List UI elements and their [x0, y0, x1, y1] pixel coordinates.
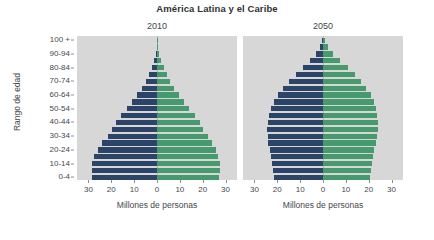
bar-row: [243, 134, 403, 139]
bar-row: [77, 113, 237, 118]
bar-female-15-19: [157, 154, 218, 159]
y-tick-mark: [71, 53, 74, 54]
bar-row: [243, 168, 403, 173]
bar-row: [77, 86, 237, 91]
bar-female-45-49: [323, 113, 377, 118]
bar-male-70-74: [146, 79, 157, 84]
bar-female-25-29: [323, 140, 376, 145]
x-tick-label: 30: [84, 185, 93, 194]
bar-male-40-44: [268, 120, 323, 125]
y-tick-mark: [71, 136, 74, 137]
bar-row: [77, 79, 237, 84]
bar-row: [77, 99, 237, 104]
bar-row: [243, 79, 403, 84]
bar-male-30-34: [268, 134, 323, 139]
bar-row: [243, 86, 403, 91]
y-tick-mark: [71, 177, 74, 178]
bar-female-35-39: [323, 127, 378, 132]
y-tick-label: 60-64: [50, 91, 70, 99]
bar-row: [243, 51, 403, 56]
bar-row: [243, 120, 403, 125]
bar-female-80-84: [323, 65, 348, 70]
x-tick-label: 30: [221, 185, 230, 194]
bar-female-70-74: [157, 79, 170, 84]
bar-female-90-94: [157, 51, 159, 56]
panel-2050-plot-area: [243, 36, 403, 180]
bar-female-40-44: [157, 120, 200, 125]
y-tick-label: 30-34: [50, 132, 70, 140]
x-tick-mark: [157, 180, 158, 183]
y-tick-mark: [71, 95, 74, 96]
y-tick-label: 50-54: [50, 105, 70, 113]
bar-male-80-84: [303, 65, 323, 70]
y-tick-label: 70-74: [50, 77, 70, 85]
x-tick-label: 30: [250, 185, 259, 194]
bar-male-25-29: [268, 140, 323, 145]
x-tick-label: 10: [296, 185, 305, 194]
bar-row: [77, 120, 237, 125]
bar-female-40-44: [323, 120, 378, 125]
bar-male-75-79: [296, 72, 323, 77]
bar-row: [77, 154, 237, 159]
y-tick-mark: [71, 163, 74, 164]
y-tick-label: 100 +: [50, 36, 70, 44]
bar-row: [243, 127, 403, 132]
bar-male-60-64: [278, 92, 323, 97]
bar-row: [77, 44, 237, 49]
bar-female-20-24: [323, 147, 374, 152]
bar-row: [77, 92, 237, 97]
bar-male-65-69: [142, 86, 157, 91]
bar-male-30-34: [108, 134, 157, 139]
bar-row: [77, 134, 237, 139]
bar-female-100 +: [323, 38, 325, 43]
y-tick-mark: [71, 40, 74, 41]
y-axis-tick-labels: 0-410-1420-2430-3440-4450-5460-6470-7480…: [22, 36, 74, 180]
bar-female-60-64: [323, 92, 371, 97]
bar-male-50-54: [271, 106, 323, 111]
bar-male-45-49: [121, 113, 157, 118]
bar-male-65-69: [283, 86, 323, 91]
bar-female-35-39: [157, 127, 203, 132]
bar-female-90-94: [323, 51, 333, 56]
bar-row: [243, 72, 403, 77]
y-tick-label: 80-84: [50, 64, 70, 72]
bar-male-55-59: [274, 99, 323, 104]
x-tick-mark: [300, 180, 301, 183]
x-tick-label: 10: [341, 185, 350, 194]
bar-female-45-49: [157, 113, 195, 118]
panel-2050-x-axis-title: Millones de personas: [243, 200, 403, 210]
bar-row: [77, 161, 237, 166]
y-tick-label: 0-4: [58, 173, 70, 181]
bar-female-5-9: [157, 168, 220, 173]
bar-row: [243, 140, 403, 145]
bar-row: [243, 161, 403, 166]
bar-female-75-79: [157, 72, 167, 77]
y-tick-label: 90-94: [50, 50, 70, 58]
panel-2010: 2010 Millones de personas 3020100102030: [77, 36, 237, 180]
bar-row: [77, 140, 237, 145]
x-tick-mark: [180, 180, 181, 183]
bar-row: [243, 65, 403, 70]
bar-female-50-54: [157, 106, 189, 111]
bar-male-10-14: [272, 161, 323, 166]
bar-row: [77, 106, 237, 111]
bar-female-30-34: [157, 134, 208, 139]
y-tick-label: 20-24: [50, 146, 70, 154]
bar-male-50-54: [127, 106, 157, 111]
bar-row: [243, 154, 403, 159]
x-tick-label: 10: [175, 185, 184, 194]
bar-male-55-59: [132, 99, 157, 104]
panel-2050-title: 2050: [243, 21, 403, 31]
bar-male-20-24: [98, 147, 157, 152]
x-tick-label: 20: [198, 185, 207, 194]
bar-male-70-74: [289, 79, 323, 84]
bar-row: [243, 38, 403, 43]
y-axis-title: Rango de edad: [12, 47, 22, 157]
panel-2010-x-axis-title: Millones de personas: [77, 200, 237, 210]
x-tick-label: 0: [321, 185, 325, 194]
x-tick-mark: [88, 180, 89, 183]
panel-2010-x-axis: Millones de personas 3020100102030: [77, 180, 237, 210]
bar-male-20-24: [270, 147, 323, 152]
bar-female-75-79: [323, 72, 355, 77]
bar-female-70-74: [323, 79, 361, 84]
